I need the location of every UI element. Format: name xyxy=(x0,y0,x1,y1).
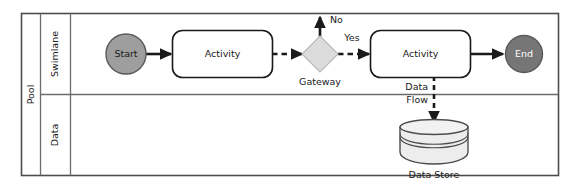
data-store-label: Data Store xyxy=(409,169,460,180)
flow-label-yes: Yes xyxy=(343,32,359,43)
node-activity-1[interactable]: Activity xyxy=(173,31,273,78)
flow-label-data-line2: Flow xyxy=(406,94,428,105)
end-event-label: End xyxy=(515,48,533,59)
node-end-event[interactable]: End xyxy=(506,36,543,73)
node-activity-2[interactable]: Activity xyxy=(371,31,471,78)
diagram-canvas: Pool Swimlane Data No Yes Data Flow Star… xyxy=(0,0,581,188)
bpmn-diagram: Pool Swimlane Data No Yes Data Flow Star… xyxy=(0,0,581,188)
activity-2-label: Activity xyxy=(403,48,439,59)
node-data-store[interactable]: Data Store xyxy=(400,120,468,180)
data-store-top xyxy=(400,120,468,135)
node-start-event[interactable]: Start xyxy=(106,34,146,74)
start-event-label: Start xyxy=(114,48,137,59)
lane-label-data: Data xyxy=(49,124,60,147)
gateway-label: Gateway xyxy=(299,76,341,87)
flow-label-data-line1: Data xyxy=(405,81,428,92)
lane-label-swimlane: Swimlane xyxy=(49,31,60,77)
pool-label: Pool xyxy=(25,85,36,105)
flow-label-no: No xyxy=(330,14,343,25)
activity-1-label: Activity xyxy=(205,48,241,59)
